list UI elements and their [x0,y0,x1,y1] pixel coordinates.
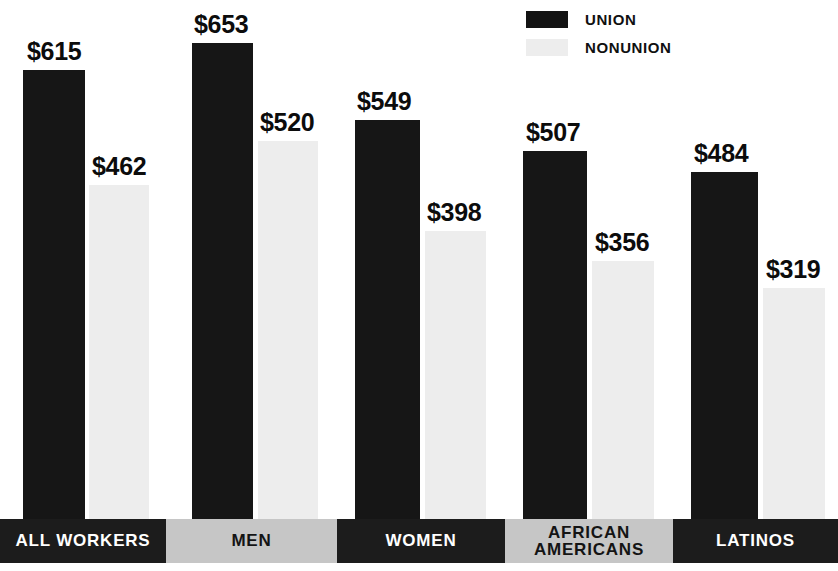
bar-african-americans-union [523,151,587,519]
bar-value-men-union: $653 [194,12,248,37]
bar-value-african-americans-nonunion: $356 [595,230,649,255]
bar-all-workers-nonunion [89,185,149,519]
plot-area: $615$462$653$520$549$398$507$356$484$319 [0,0,838,519]
bar-latinos-union [691,172,758,519]
bar-value-all-workers-nonunion: $462 [92,154,146,179]
category-label-all-workers: ALL WORKERS [0,519,166,563]
bar-value-african-americans-union: $507 [526,120,580,145]
category-label-african-americans: AFRICAN AMERICANS [505,519,673,563]
bar-value-women-nonunion: $398 [427,200,481,225]
bar-men-nonunion [258,141,318,519]
bar-women-nonunion [425,231,486,519]
bar-all-workers-union [23,70,85,519]
bar-value-men-nonunion: $520 [260,110,314,135]
category-label-women: WOMEN [337,519,505,563]
bar-value-all-workers-union: $615 [27,39,81,64]
category-label-band: ALL WORKERSMENWOMENAFRICAN AMERICANSLATI… [0,519,838,563]
bar-value-latinos-nonunion: $319 [766,257,820,282]
category-label-men: MEN [166,519,337,563]
bar-men-union [192,43,253,519]
bar-african-americans-nonunion [592,261,654,519]
bar-women-union [355,120,420,519]
bar-value-women-union: $549 [357,89,411,114]
union-wage-gap-bar-chart: UNION NONUNION $615$462$653$520$549$398$… [0,0,838,571]
bar-value-latinos-union: $484 [694,141,748,166]
bar-latinos-nonunion [763,288,825,519]
category-label-latinos: LATINOS [673,519,838,563]
